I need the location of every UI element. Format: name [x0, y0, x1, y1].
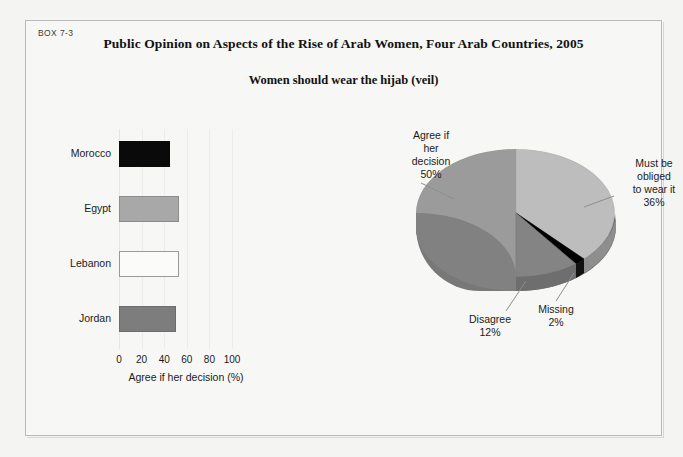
- bar-label-egypt: Egypt: [31, 202, 111, 214]
- page-canvas: BOX 7-3 Public Opinion on Aspects of the…: [0, 0, 683, 457]
- pie-label-agree-line2: her: [396, 142, 466, 155]
- pie-label-obliged-line3: to wear it: [616, 183, 683, 196]
- bar-label-lebanon: Lebanon: [31, 257, 111, 269]
- bar-label-jordan: Jordan: [31, 312, 111, 324]
- bar-egypt: [119, 196, 179, 222]
- pie-label-missing: Missing 2%: [526, 303, 586, 329]
- pie-label-missing-line1: Missing: [526, 303, 586, 316]
- gridline-80: [209, 129, 210, 349]
- pie-label-obliged-pct: 36%: [616, 196, 683, 209]
- pie-chart: Agree if her decision 50% Must be oblige…: [376, 121, 683, 381]
- figure-subtitle: Women should wear the hijab (veil): [26, 73, 661, 88]
- pie-label-obliged-line2: obliged: [616, 170, 683, 183]
- pie-label-disagree-pct: 12%: [454, 326, 526, 339]
- bar-chart-x-axis-label: Agree if her decision (%): [61, 371, 311, 383]
- pie-label-agree-pct: 50%: [396, 168, 466, 181]
- pie-label-disagree-line1: Disagree: [454, 313, 526, 326]
- gridline-100: [232, 129, 233, 349]
- bar-morocco: [119, 141, 170, 167]
- pie-label-agree-line3: decision: [396, 155, 466, 168]
- bar-label-morocco: Morocco: [31, 147, 111, 159]
- figure-box: BOX 7-3 Public Opinion on Aspects of the…: [25, 20, 662, 436]
- pie-label-agree-if-her-decision: Agree if her decision 50%: [396, 129, 466, 181]
- bar-jordan: [119, 306, 176, 332]
- pie-label-agree-line1: Agree if: [396, 129, 466, 142]
- figure-title: Public Opinion on Aspects of the Rise of…: [26, 36, 661, 52]
- bar-chart: MoroccoEgyptLebanonJordan 020406080100 A…: [31, 121, 331, 386]
- bar-lebanon: [119, 251, 179, 277]
- x-tick-100: 100: [217, 354, 247, 365]
- pie-label-obliged-line1: Must be: [616, 157, 683, 170]
- pie-label-missing-pct: 2%: [526, 316, 586, 329]
- gridline-60: [187, 129, 188, 349]
- pie-label-must-be-obliged: Must be obliged to wear it 36%: [616, 157, 683, 209]
- pie-label-disagree: Disagree 12%: [454, 313, 526, 339]
